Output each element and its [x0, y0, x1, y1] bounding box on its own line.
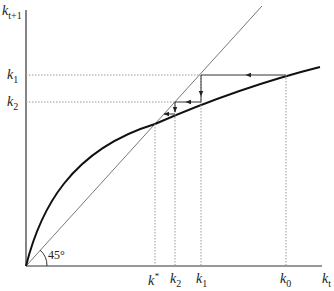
x-tick-k0: k0	[280, 272, 291, 289]
y-tick-k1: k1	[7, 68, 18, 85]
x-tick-k1: k1	[196, 272, 207, 289]
accumulation-curve	[26, 67, 320, 266]
guide-lines	[26, 75, 286, 266]
y-tick-k2: k2	[7, 95, 18, 112]
y-axis-label: kt+1	[2, 4, 22, 21]
angle-arc	[40, 250, 47, 266]
x-tick-k2: k2	[170, 272, 181, 289]
angle-label: 45°	[48, 248, 65, 263]
x-axis-label: kt	[322, 272, 331, 289]
forty-five-degree-line	[26, 6, 262, 266]
x-tick-kstar: k*	[148, 272, 159, 288]
